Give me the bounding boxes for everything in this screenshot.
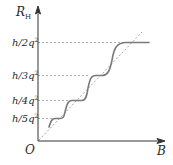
y-tick-label-h2: h/2q2 xyxy=(12,36,39,48)
x-axis-arrow-icon xyxy=(157,139,165,144)
y-tick-label-h5: h/5q2 xyxy=(12,112,39,124)
chart-svg: RH B O h/2q2 h/3q2 h/4q2 h/5q2 xyxy=(0,0,173,165)
y-axis-label: RH xyxy=(15,5,31,21)
y-tick-label-h3: h/3q2 xyxy=(12,69,39,81)
quantum-hall-curve xyxy=(49,43,149,128)
classical-hall-line xyxy=(39,32,142,140)
origin-label: O xyxy=(25,143,35,157)
quantum-hall-figure: RH B O h/2q2 h/3q2 h/4q2 h/5q2 xyxy=(0,0,173,165)
y-tick-label-h4: h/4q2 xyxy=(12,94,39,106)
x-axis-label: B xyxy=(156,144,166,158)
